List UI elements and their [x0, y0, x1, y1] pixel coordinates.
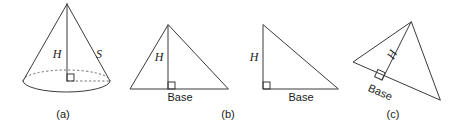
right-triangle-right-angle-mark [263, 82, 270, 89]
figure-canvas: H S (a) H Base (b) H Base [0, 0, 464, 126]
panel-a-cone: H S (a) [23, 4, 110, 120]
acute-triangle-outline [130, 25, 228, 89]
panel-b-right-triangle: H Base [249, 25, 338, 103]
oblique-triangle-outline [353, 22, 440, 100]
acute-triangle-right-angle-mark [168, 82, 175, 89]
oblique-triangle-right-angle-mark [375, 69, 386, 80]
panel-a-caption: (a) [56, 108, 69, 120]
panel-b-caption: (b) [221, 108, 234, 120]
panel-c-caption: (c) [387, 108, 400, 120]
right-triangle-height-label: H [249, 50, 260, 64]
acute-triangle-height-label: H [154, 50, 165, 64]
cone-base-front-arc [23, 81, 110, 92]
cone-left-slant-line [23, 4, 67, 81]
oblique-triangle-base-label: Base [367, 81, 395, 102]
cone-slant-label: S [96, 47, 102, 61]
panel-b-acute-triangle: H Base (b) [130, 25, 235, 120]
panel-c-oblique-triangle: H Base (c) [353, 22, 440, 120]
acute-triangle-base-label: Base [167, 91, 192, 103]
geometry-figure-panel: H S (a) H Base (b) H Base [0, 0, 464, 126]
cone-right-slant-line [67, 4, 110, 81]
right-triangle-outline [263, 25, 338, 89]
right-triangle-base-label: Base [288, 91, 313, 103]
cone-height-label: H [52, 47, 63, 61]
cone-right-angle-mark [67, 74, 74, 81]
